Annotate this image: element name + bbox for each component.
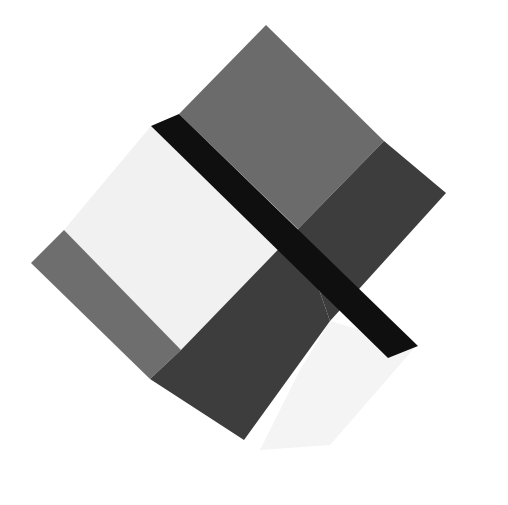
artwork-canvas: Abstract geometric composition bbox=[0, 0, 508, 505]
geometric-artwork bbox=[0, 0, 508, 505]
